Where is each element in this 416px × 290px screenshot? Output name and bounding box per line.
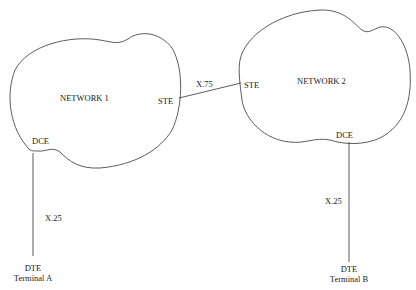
network-2-ste-label: STE [244,81,259,90]
network-2-dce-label: DCE [336,131,353,140]
network-1-dce-label: DCE [32,137,49,146]
terminal-a-name-label: Terminal A [14,274,52,283]
x75-link-label: X.75 [196,80,213,89]
network-1-label: NETWORK 1 [60,94,109,103]
terminal-a-type-label: DTE [25,264,42,273]
x25-link-label-b: X.25 [325,197,342,206]
network-1-ste-label: STE [158,97,173,106]
terminal-b-name-label: Terminal B [330,275,368,284]
terminal-b-type-label: DTE [341,265,358,274]
x25-link-label-a: X.25 [45,214,62,223]
network-diagram [0,0,416,290]
network-2-label: NETWORK 2 [297,77,346,86]
